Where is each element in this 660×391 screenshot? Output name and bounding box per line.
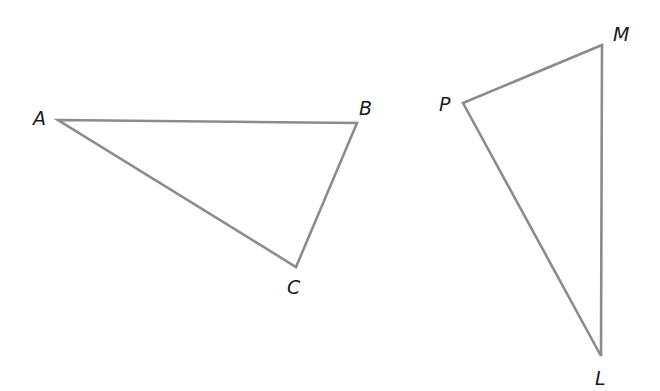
- vertex-label-c: C: [287, 276, 301, 298]
- vertex-label-b: B: [359, 97, 372, 119]
- vertex-label-p: P: [439, 93, 451, 115]
- vertex-label-m: M: [613, 23, 629, 45]
- triangle-abc: A B C: [31, 97, 372, 298]
- triangle-abc-shape: [58, 120, 357, 267]
- vertex-label-a: A: [31, 107, 46, 129]
- triangle-pml-shape: [463, 45, 602, 356]
- triangle-pml: P M L: [439, 23, 629, 389]
- diagram-canvas: A B C P M L: [0, 0, 660, 391]
- vertex-label-l: L: [595, 367, 606, 389]
